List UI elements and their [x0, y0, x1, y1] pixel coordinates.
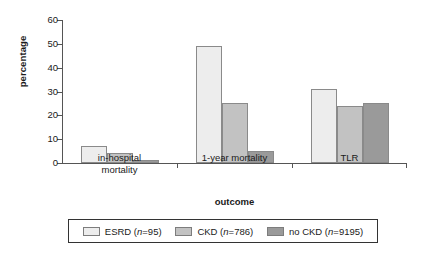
legend-item[interactable]: no CKD (n=9195) [267, 226, 363, 237]
legend-swatch-icon [175, 227, 192, 236]
legend-item-label: CKD (n=786) [197, 226, 253, 237]
y-tick-label: 0 [53, 157, 58, 168]
x-axis-title: outcome [62, 196, 407, 207]
legend-item[interactable]: ESRD (n=95) [83, 226, 162, 237]
y-tick-label: 40 [47, 62, 58, 73]
x-category-label: 1-year mortality [177, 152, 292, 164]
y-tick-label: 30 [47, 86, 58, 97]
legend-swatch-icon [267, 227, 284, 236]
legend-item[interactable]: CKD (n=786) [175, 226, 253, 237]
chart-legend: ESRD (n=95)CKD (n=786)no CKD (n=9195) [68, 219, 378, 243]
plot-area: 0102030405060 [62, 20, 407, 163]
bar-group-container [62, 20, 407, 163]
legend-item-label: ESRD (n=95) [105, 226, 162, 237]
bar-chart-figure: percentage 0102030405060 in-hospital mor… [0, 0, 431, 254]
y-tick-label: 60 [47, 14, 58, 25]
bar [196, 46, 222, 163]
y-tick-label: 50 [47, 38, 58, 49]
legend-item-label: no CKD (n=9195) [289, 226, 363, 237]
legend-swatch-icon [83, 227, 100, 236]
x-category-label: TLR [292, 152, 407, 164]
y-axis-title: percentage [17, 12, 28, 112]
x-category-label: in-hospital mortality [62, 152, 177, 176]
y-tick-label: 10 [47, 133, 58, 144]
y-tick-label: 20 [47, 109, 58, 120]
